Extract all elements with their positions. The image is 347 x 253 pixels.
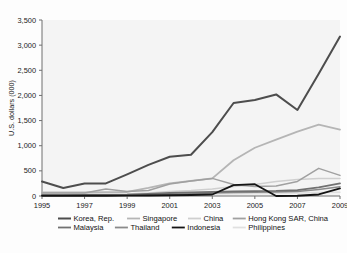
y-axis-label: U.S. dollars (000) — [7, 80, 16, 136]
y-tick-label: 3,000 — [18, 41, 37, 50]
x-tick-label: 1995 — [34, 201, 50, 210]
y-tick-label: 2,000 — [18, 91, 37, 100]
y-tick-label: 500 — [24, 166, 36, 175]
x-tick-label: 2003 — [204, 201, 220, 210]
y-tick-label: 2,500 — [18, 66, 37, 75]
x-tick-label: 1997 — [76, 201, 92, 210]
y-tick-label: 1,500 — [18, 116, 37, 125]
y-tick-label: 3,500 — [18, 16, 37, 25]
legend-label-indonesia: Indonesia — [187, 223, 221, 232]
chart-figure: 05001,0001,5002,0002,5003,0003,500 19951… — [0, 0, 347, 253]
y-tick-label: 1,000 — [18, 141, 37, 150]
legend-label-singapore: Singapore — [143, 214, 178, 223]
chart-legend: Korea, Rep.SingaporeChinaHong Kong SAR, … — [58, 214, 329, 232]
legend-label-china: China — [204, 214, 225, 223]
legend-label-malaysia: Malaysia — [74, 223, 105, 232]
x-tick-label: 2009 — [332, 201, 347, 210]
x-tick-label: 1999 — [119, 201, 135, 210]
legend-label-korea-rep: Korea, Rep. — [74, 214, 115, 223]
line-chart: 05001,0001,5002,0002,5003,0003,500 19951… — [0, 0, 347, 253]
x-tick-label: 2005 — [247, 201, 263, 210]
legend-label-hong-kong-sar-china: Hong Kong SAR, China — [248, 214, 329, 223]
x-axis-ticks: 19951997199920012003200520072009 — [34, 196, 347, 210]
y-axis-ticks: 05001,0001,5002,0002,5003,0003,500 — [18, 16, 43, 201]
legend-label-philippines: Philippines — [248, 223, 285, 232]
y-tick-label: 0 — [32, 192, 36, 201]
x-tick-label: 2001 — [161, 201, 177, 210]
x-tick-label: 2007 — [289, 201, 305, 210]
legend-label-thailand: Thailand — [130, 223, 159, 232]
